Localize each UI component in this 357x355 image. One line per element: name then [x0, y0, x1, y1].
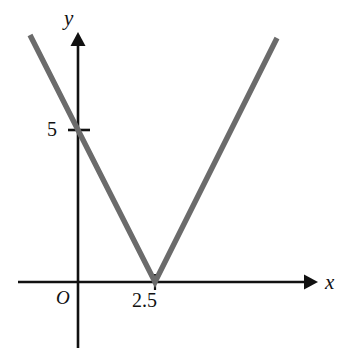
- graph-figure: y x O 5 2.5: [0, 0, 357, 355]
- y-axis-label: y: [64, 8, 73, 29]
- origin-label: O: [56, 288, 70, 307]
- y-axis-arrow-icon: [71, 32, 86, 46]
- coordinate-plot: [0, 0, 357, 355]
- x-axis-arrow-icon: [304, 275, 318, 290]
- x-axis-label: x: [325, 272, 334, 293]
- y-tick-label-5: 5: [47, 119, 57, 139]
- x-tick-label-2point5: 2.5: [132, 290, 157, 310]
- absolute-value-curve: [30, 35, 277, 282]
